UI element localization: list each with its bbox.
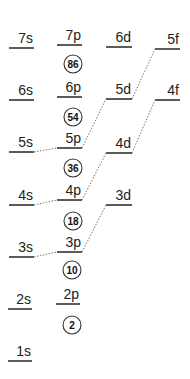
orbital-level-5f: 5f xyxy=(155,31,180,49)
level-label: 2p xyxy=(63,286,79,302)
closure-number: 36 xyxy=(67,163,79,174)
orbital-levels: 7s7p6d5f6s6p5d4f5s5p4d4s4p3d3s3p2s2p1s xyxy=(8,27,180,361)
orbital-level-4p: 4p xyxy=(57,182,82,200)
orbital-level-5p: 5p xyxy=(57,130,82,148)
level-label: 3s xyxy=(18,239,33,255)
shell-closure-36: 36 xyxy=(64,159,82,177)
orbital-level-1s: 1s xyxy=(8,343,32,361)
orbital-level-6d: 6d xyxy=(106,29,132,47)
orbital-level-2s: 2s xyxy=(8,291,32,309)
level-label: 4s xyxy=(18,187,33,203)
connector-4p-4d xyxy=(82,153,106,200)
level-label: 7p xyxy=(65,27,81,43)
orbital-level-2p: 2p xyxy=(56,286,80,304)
closure-number: 10 xyxy=(66,265,78,276)
orbital-energy-diagram: 7s7p6d5f6s6p5d4f5s5p4d4s4p3d3s3p2s2p1s 8… xyxy=(0,0,190,379)
shell-closure-86: 86 xyxy=(64,55,82,73)
orbital-level-3p: 3p xyxy=(57,234,82,252)
orbital-level-5s: 5s xyxy=(9,134,34,152)
orbital-level-4f: 4f xyxy=(155,82,180,100)
connector-3p-3d xyxy=(82,205,106,252)
connector-5s-5p xyxy=(34,148,57,152)
closure-number: 2 xyxy=(69,320,75,331)
connector-3s-3p xyxy=(34,252,57,257)
shell-closure-2: 2 xyxy=(63,316,81,334)
level-label: 4d xyxy=(115,135,131,151)
connector-4s-4p xyxy=(34,200,57,205)
orbital-level-4s: 4s xyxy=(9,187,34,205)
orbital-level-5d: 5d xyxy=(106,81,132,99)
level-label: 5f xyxy=(167,31,179,47)
level-label: 3p xyxy=(65,234,81,250)
level-label: 6d xyxy=(115,29,131,45)
orbital-level-3s: 3s xyxy=(9,239,34,257)
level-label: 1s xyxy=(16,343,31,359)
orbital-level-7p: 7p xyxy=(57,27,82,45)
orbital-level-4d: 4d xyxy=(106,135,132,153)
orbital-level-3d: 3d xyxy=(106,187,132,205)
level-label: 4f xyxy=(167,82,179,98)
closure-number: 18 xyxy=(67,216,79,227)
orbital-level-6p: 6p xyxy=(57,79,82,97)
level-label: 2s xyxy=(16,291,31,307)
level-label: 3d xyxy=(115,187,131,203)
connector-lines xyxy=(34,49,155,257)
level-label: 5p xyxy=(65,130,81,146)
shell-closure-10: 10 xyxy=(63,261,81,279)
closure-number: 86 xyxy=(67,59,79,70)
orbital-level-7s: 7s xyxy=(9,30,34,48)
level-label: 6p xyxy=(65,79,81,95)
level-label: 5d xyxy=(115,81,131,97)
level-label: 5s xyxy=(18,134,33,150)
level-label: 6s xyxy=(18,82,33,98)
orbital-level-6s: 6s xyxy=(9,82,34,100)
connector-5d-5f xyxy=(132,49,155,99)
closure-number: 54 xyxy=(67,112,79,123)
level-label: 4p xyxy=(65,182,81,198)
shell-closure-18: 18 xyxy=(64,212,82,230)
shell-closure-54: 54 xyxy=(64,108,82,126)
connector-4d-4f xyxy=(132,100,155,153)
connector-5p-5d xyxy=(82,99,106,148)
level-label: 7s xyxy=(18,30,33,46)
